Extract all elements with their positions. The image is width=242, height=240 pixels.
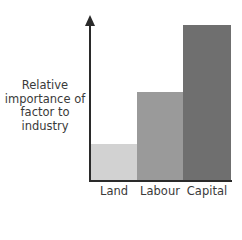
x-axis — [89, 180, 232, 182]
x-label-capital: Capital — [183, 184, 231, 198]
y-axis-label-line: Relative — [2, 79, 88, 93]
x-label-labour: Labour — [137, 184, 183, 198]
y-axis-label-line: importance of — [2, 93, 88, 107]
bar-capital — [183, 25, 231, 180]
y-axis-label-line: factor to — [2, 106, 88, 120]
y-axis-label-line: industry — [2, 120, 88, 134]
x-label-land: Land — [91, 184, 137, 198]
bar-land — [91, 144, 137, 180]
y-axis-label: Relative importance of factor to industr… — [2, 79, 88, 133]
bar-labour — [137, 92, 183, 180]
